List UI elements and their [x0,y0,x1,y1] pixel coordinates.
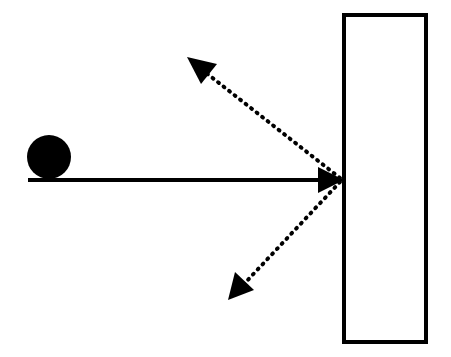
reflected-down-arrowhead-icon [228,272,254,300]
reflected-arrow-down [228,182,340,300]
wall [344,15,426,342]
incident-arrow [28,167,344,193]
diagram-canvas [0,0,451,357]
reflected-arrow-up [187,57,340,178]
incident-arrowhead-icon [318,167,344,193]
ball [27,135,71,179]
